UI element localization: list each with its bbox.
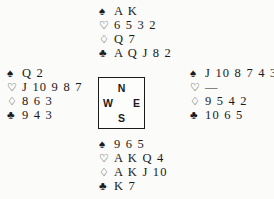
compass-north-label: N	[118, 83, 126, 94]
north-hearts-cards: 6 5 3 2	[114, 18, 157, 32]
compass-box: N W E S	[98, 77, 145, 129]
west-spades-line: ♠ Q 2	[7, 66, 83, 80]
south-spades-cards: 9 6 5	[114, 137, 145, 151]
south-diamonds-cards: A K J 10	[114, 165, 168, 179]
south-clubs-cards: K 7	[114, 179, 136, 193]
diamond-icon: ♢	[99, 165, 110, 179]
club-icon: ♣	[99, 46, 110, 60]
west-clubs-line: ♣ 9 4 3	[7, 108, 83, 122]
hand-east: ♠ J 10 8 7 4 3 ♡ — ♢ 9 5 4 2 ♣ 10 6 5	[190, 66, 274, 122]
south-spades-line: ♠ 9 6 5	[99, 137, 168, 151]
west-spades-cards: Q 2	[22, 66, 44, 80]
east-diamonds-cards: 9 5 4 2	[205, 94, 248, 108]
spade-icon: ♠	[190, 66, 201, 80]
west-diamonds-cards: 8 6 3	[22, 94, 53, 108]
south-hearts-cards: A K Q 4	[114, 151, 164, 165]
compass-west-label: W	[103, 98, 113, 109]
spade-icon: ♠	[99, 137, 110, 151]
north-hearts-line: ♡ 6 5 3 2	[99, 18, 172, 32]
west-hearts-line: ♡ J 10 9 8 7	[7, 80, 83, 94]
north-diamonds-cards: Q 7	[114, 32, 136, 46]
west-hearts-cards: J 10 9 8 7	[22, 80, 83, 94]
heart-icon: ♡	[99, 18, 110, 32]
south-hearts-line: ♡ A K Q 4	[99, 151, 168, 165]
north-diamonds-line: ♢ Q 7	[99, 32, 172, 46]
east-hearts-line: ♡ —	[190, 80, 274, 94]
heart-icon: ♡	[7, 80, 18, 94]
spade-icon: ♠	[7, 66, 18, 80]
diamond-icon: ♢	[190, 94, 201, 108]
north-spades-cards: A K	[114, 4, 138, 18]
hand-west: ♠ Q 2 ♡ J 10 9 8 7 ♢ 8 6 3 ♣ 9 4 3	[7, 66, 83, 122]
club-icon: ♣	[99, 179, 110, 193]
north-clubs-cards: A Q J 8 2	[114, 46, 172, 60]
north-clubs-line: ♣ A Q J 8 2	[99, 46, 172, 60]
south-diamonds-line: ♢ A K J 10	[99, 165, 168, 179]
spade-icon: ♠	[99, 4, 110, 18]
club-icon: ♣	[7, 108, 18, 122]
compass-south-label: S	[118, 113, 125, 124]
diamond-icon: ♢	[7, 94, 18, 108]
east-clubs-line: ♣ 10 6 5	[190, 108, 274, 122]
west-clubs-cards: 9 4 3	[22, 108, 53, 122]
north-spades-line: ♠ A K	[99, 4, 172, 18]
bridge-deal-diagram: ♠ A K ♡ 6 5 3 2 ♢ Q 7 ♣ A Q J 8 2 ♠ Q 2 …	[0, 0, 274, 199]
east-spades-line: ♠ J 10 8 7 4 3	[190, 66, 274, 80]
east-clubs-cards: 10 6 5	[205, 108, 243, 122]
west-diamonds-line: ♢ 8 6 3	[7, 94, 83, 108]
heart-icon: ♡	[99, 151, 110, 165]
hand-south: ♠ 9 6 5 ♡ A K Q 4 ♢ A K J 10 ♣ K 7	[99, 137, 168, 193]
east-diamonds-line: ♢ 9 5 4 2	[190, 94, 274, 108]
heart-icon: ♡	[190, 80, 201, 94]
east-spades-cards: J 10 8 7 4 3	[205, 66, 274, 80]
south-clubs-line: ♣ K 7	[99, 179, 168, 193]
diamond-icon: ♢	[99, 32, 110, 46]
hand-north: ♠ A K ♡ 6 5 3 2 ♢ Q 7 ♣ A Q J 8 2	[99, 4, 172, 60]
east-hearts-cards: —	[205, 80, 219, 94]
compass-east-label: E	[133, 98, 140, 109]
club-icon: ♣	[190, 108, 201, 122]
